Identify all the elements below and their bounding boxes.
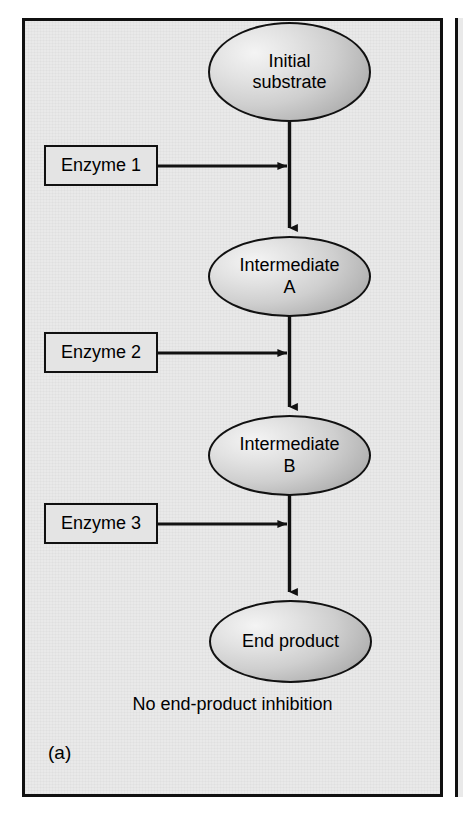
end-product-inhibition-note: No end-product inhibition — [22, 694, 443, 715]
enzyme-box-3: Enzyme 3 — [44, 503, 158, 544]
node-end-product: End product — [209, 600, 372, 683]
enzyme-box-2-label: Enzyme 2 — [61, 342, 141, 363]
node-intermediate-b-label: Intermediate B — [229, 434, 349, 476]
panel-a — [22, 18, 443, 797]
node-intermediate-a-label: Intermediate A — [229, 255, 349, 297]
node-end-product-label: End product — [232, 631, 349, 652]
node-initial-substrate-label: Initial substrate — [242, 51, 336, 93]
enzyme-box-2: Enzyme 2 — [44, 332, 158, 373]
panel-letter: (a) — [48, 742, 71, 764]
enzyme-box-3-label: Enzyme 3 — [61, 513, 141, 534]
panel-b-edge — [455, 18, 463, 797]
enzyme-box-1: Enzyme 1 — [44, 145, 158, 186]
node-initial-substrate: Initial substrate — [208, 22, 371, 122]
node-intermediate-b: Intermediate B — [208, 415, 371, 496]
node-intermediate-a: Intermediate A — [208, 236, 371, 317]
figure-root: Initial substrate Intermediate A Interme… — [0, 0, 463, 814]
enzyme-box-1-label: Enzyme 1 — [61, 155, 141, 176]
